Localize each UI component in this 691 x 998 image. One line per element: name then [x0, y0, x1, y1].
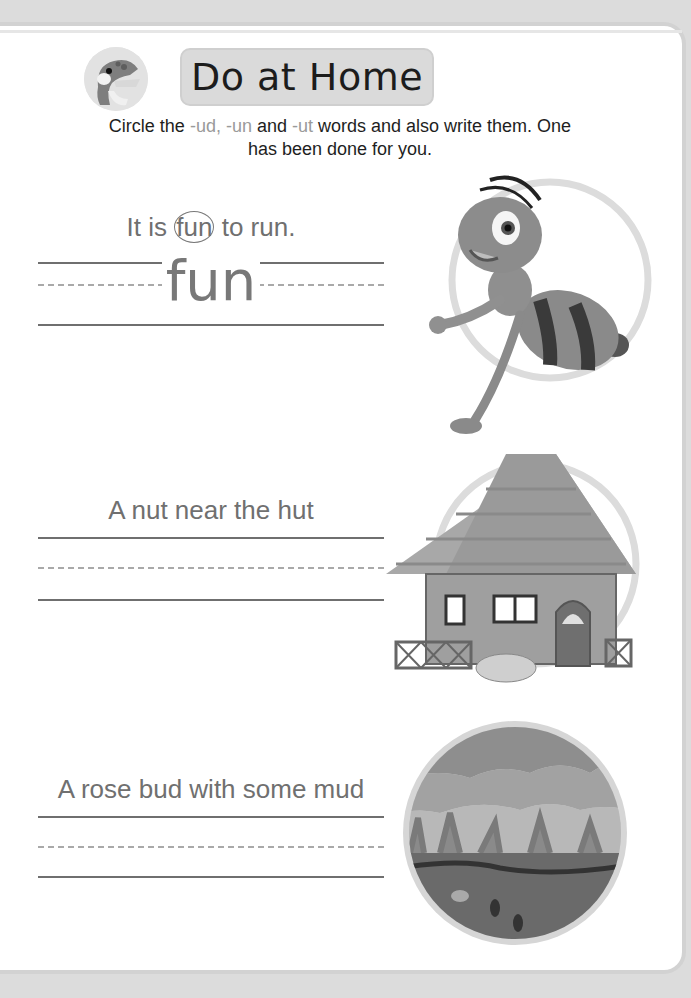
- exercise-sentence: It is fun to run.: [38, 210, 384, 244]
- writing-lines[interactable]: [38, 816, 384, 880]
- answer-text: fun: [162, 248, 261, 313]
- exercise-sentence: A nut near the hut: [38, 493, 384, 527]
- writing-lines[interactable]: [38, 537, 384, 601]
- bottom-line: [38, 324, 384, 326]
- sentence-part: It is: [127, 212, 175, 242]
- sentence-part: to run.: [214, 212, 295, 242]
- exercise-2: A nut near the hut: [38, 493, 384, 601]
- crocodile-mascot-icon: [84, 47, 148, 111]
- suffix-highlight: -ud, -un: [190, 116, 252, 136]
- exercise-sentence: A rose bud with some mud: [38, 772, 384, 806]
- page-title: Do at Home: [191, 55, 423, 99]
- muddy-field-illustration: [400, 718, 640, 958]
- instructions-part: and: [252, 116, 292, 136]
- exercise-1: It is fun to run. fun: [38, 210, 384, 318]
- instructions-part: Circle the: [109, 116, 190, 136]
- mid-dashed-line: [38, 567, 384, 569]
- title-banner: Do at Home: [180, 48, 434, 106]
- top-line: [38, 816, 384, 818]
- instructions-text: Circle the -ud, -un and -ut words and al…: [100, 115, 580, 161]
- ant-illustration: [400, 170, 660, 440]
- bottom-line: [38, 599, 384, 601]
- hut-with-nut-illustration: [386, 444, 646, 694]
- bottom-line: [38, 876, 384, 878]
- top-line: [38, 537, 384, 539]
- exercise-3: A rose bud with some mud: [38, 772, 384, 880]
- suffix-highlight: -ut: [292, 116, 313, 136]
- writing-lines[interactable]: fun: [38, 254, 384, 318]
- mid-dashed-line: [38, 846, 384, 848]
- answer-word: fun: [38, 250, 384, 312]
- circled-word[interactable]: fun: [174, 211, 214, 243]
